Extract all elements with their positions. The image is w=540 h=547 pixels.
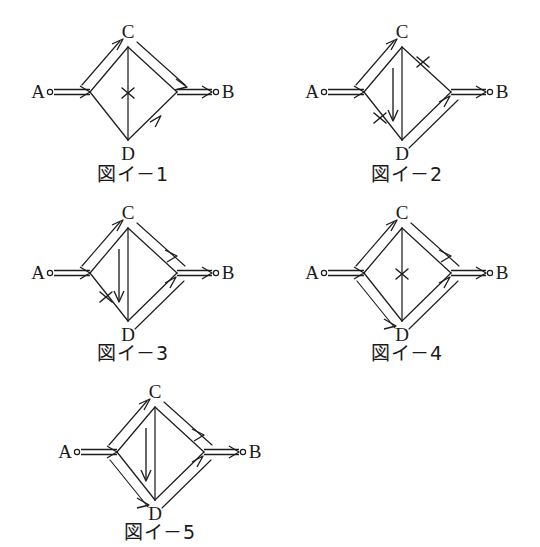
figure-i-4: A C D B: [292, 203, 522, 343]
terminal-dot-a: [321, 89, 326, 94]
edge-d-b: [128, 273, 184, 329]
node-label-b: B: [496, 81, 509, 102]
terminal-dot-b: [240, 449, 245, 454]
edge-junction-b: [451, 86, 486, 98]
edge-c-b: [402, 223, 459, 273]
node-label-b: B: [249, 441, 262, 462]
node-label-a: A: [31, 262, 45, 283]
node-label-a: A: [305, 262, 319, 283]
edge-a-junction: [328, 267, 364, 279]
edge-c-b: [128, 223, 185, 273]
terminal-dot-b: [487, 270, 492, 275]
caption-i-2: 図イ－2: [292, 165, 522, 184]
caption-i-4: 図イ－4: [292, 344, 522, 363]
figure-i-2-canvas: A C D B: [292, 22, 522, 162]
node-label-d: D: [395, 143, 409, 164]
edge-junction-b: [177, 267, 212, 279]
edge-c-b: [155, 402, 212, 452]
caption-i-1: 図イ－1: [18, 165, 248, 184]
terminal-dot-a: [321, 270, 326, 275]
node-label-a: A: [305, 81, 319, 102]
edge-c-b: [402, 47, 451, 92]
arrow-c-to-d: [388, 68, 398, 121]
edge-junction-b: [451, 267, 486, 279]
figure-i-2: A C D B: [292, 22, 522, 162]
edge-a-d: [364, 92, 402, 140]
edge-c-d: [396, 228, 408, 321]
figure-sheet: A C D B: [0, 0, 540, 547]
figure-i-5-canvas: A C D B: [45, 382, 275, 522]
edge-a-c: [82, 39, 128, 92]
edge-a-d: [110, 452, 155, 508]
terminal-dot-b: [487, 89, 492, 94]
edge-c-d: [122, 47, 134, 140]
terminal-dot-b: [213, 89, 218, 94]
terminal-dot-b: [213, 270, 218, 275]
node-label-d: D: [121, 143, 135, 164]
caption-i-3: 図イ－3: [18, 344, 248, 363]
terminal-dot-a: [74, 449, 79, 454]
figure-i-3: A C D B: [18, 203, 248, 343]
figure-i-5: A C D B: [45, 382, 275, 522]
edge-a-junction: [328, 86, 364, 98]
edge-a-c: [82, 220, 128, 273]
edge-d-b: [128, 92, 177, 140]
figure-i-1-canvas: A C D B: [18, 22, 248, 162]
terminal-dot-a: [47, 89, 52, 94]
edge-d-b: [402, 273, 458, 329]
caption-i-5: 図イ－5: [45, 523, 275, 542]
edge-a-junction: [81, 446, 117, 458]
edge-c-b: [128, 42, 187, 92]
edge-d-b: [402, 92, 458, 148]
node-label-a: A: [31, 81, 45, 102]
figure-i-4-canvas: A C D B: [292, 203, 522, 343]
edge-a-d: [357, 273, 402, 329]
node-label-b: B: [496, 262, 509, 283]
edge-junction-b: [204, 446, 239, 458]
arrow-c-to-d: [141, 428, 151, 481]
terminal-dot-a: [47, 270, 52, 275]
figure-i-3-canvas: A C D B: [18, 203, 248, 343]
edge-a-junction: [54, 267, 90, 279]
node-label-a: A: [58, 441, 72, 462]
node-label-b: B: [222, 262, 235, 283]
edge-a-c: [356, 39, 402, 92]
edge-a-c: [109, 399, 155, 452]
arrow-c-to-d: [114, 249, 124, 302]
edge-a-d: [90, 273, 128, 321]
node-label-b: B: [222, 81, 235, 102]
edge-a-c: [356, 220, 402, 273]
edge-a-junction: [54, 86, 90, 98]
edge-a-d: [90, 92, 128, 140]
figure-i-1: A C D B: [18, 22, 248, 162]
edge-d-b: [155, 452, 211, 508]
